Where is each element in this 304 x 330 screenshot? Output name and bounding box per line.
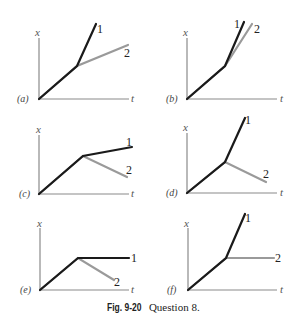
curve-label-1: 1 — [245, 211, 251, 225]
x-axis-label: t — [280, 186, 284, 198]
y-axis-label: x — [183, 217, 189, 229]
panel-e: x t 1 2 (e) — [20, 217, 137, 296]
curve-label-2: 2 — [126, 163, 132, 177]
curve-label-2: 2 — [275, 251, 281, 265]
curve-2 — [187, 162, 266, 193]
panel-label: (c) — [19, 188, 31, 200]
figure-caption: Fig. 9-20Question 8. — [0, 301, 304, 313]
panel-label: (e) — [20, 284, 32, 296]
panel-label: (b) — [166, 93, 178, 105]
x-axis-label: t — [280, 283, 284, 295]
x-axis-label: t — [131, 92, 135, 104]
curve-label-1: 1 — [245, 113, 251, 127]
panel-d: x t 1 2 (d) — [166, 113, 284, 199]
panel-c: x t 1 2 (c) — [19, 123, 135, 200]
panel-a: x t 1 2 (a) — [17, 22, 135, 105]
panel-label: (a) — [17, 93, 29, 105]
curve-label-1: 1 — [234, 17, 240, 31]
caption-text: Question 8. — [149, 301, 200, 313]
panel-f: x t 1 2 (f) — [167, 211, 284, 296]
figure-number: Fig. 9-20 — [107, 302, 141, 313]
curve-1 — [187, 118, 245, 193]
curve-1 — [39, 147, 132, 194]
curve-2 — [40, 258, 114, 290]
panel-b: x t 1 2 (b) — [166, 17, 284, 105]
y-axis-label: x — [182, 121, 188, 133]
curve-1 — [188, 214, 245, 290]
y-axis-label: x — [36, 217, 42, 229]
curve-2 — [188, 258, 274, 290]
curve-2 — [39, 156, 127, 194]
y-axis-label: x — [34, 26, 40, 38]
curve-label-1: 1 — [126, 135, 132, 149]
curve-label-2: 2 — [114, 275, 120, 289]
y-axis-label: x — [182, 26, 188, 38]
curve-1 — [187, 22, 244, 99]
curve-label-1: 1 — [131, 251, 137, 265]
x-axis-label: t — [280, 92, 284, 104]
curve-label-1: 1 — [97, 22, 103, 36]
curve-label-2: 2 — [254, 22, 260, 36]
y-axis-label: x — [35, 123, 41, 135]
x-axis-label: t — [131, 187, 135, 199]
curve-label-2: 2 — [124, 46, 130, 60]
panel-label: (f) — [167, 284, 177, 296]
panel-label: (d) — [166, 187, 178, 199]
curve-2 — [187, 24, 252, 99]
figure-9-20: x t 1 2 (a) x t 1 2 (b) x t 1 2 (c) x t … — [0, 0, 304, 330]
x-axis-label: t — [131, 283, 135, 295]
curve-label-2: 2 — [263, 167, 269, 181]
